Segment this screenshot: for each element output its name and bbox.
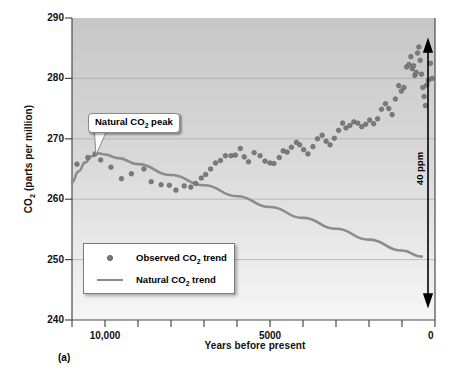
legend-natural-post: trend [189, 274, 215, 285]
data-point [263, 159, 268, 164]
data-point [75, 162, 80, 167]
ppm-arrow-label: 40 ppm [414, 146, 425, 192]
legend-item-natural: Natural CO2 trend [84, 268, 234, 292]
data-point [109, 165, 114, 170]
data-point [142, 167, 147, 172]
data-point [223, 153, 228, 158]
legend-item-observed: Observed CO2 trend [84, 246, 234, 270]
data-point [258, 153, 263, 158]
y-tick-label-290: 290 [30, 12, 64, 23]
data-point [213, 161, 218, 166]
data-point [390, 112, 395, 117]
data-point [199, 176, 204, 181]
data-point [208, 167, 213, 172]
data-point [229, 153, 234, 158]
y-axis-label-sub: 2 [28, 194, 37, 198]
data-point [238, 146, 243, 151]
natural-co2-peak-callout: Natural CO2 peak [88, 113, 180, 133]
data-point [417, 45, 422, 50]
data-point [320, 133, 325, 138]
data-point [402, 85, 407, 90]
data-point [340, 121, 345, 126]
data-point [387, 106, 392, 111]
legend-dot-marker [84, 255, 136, 261]
legend-observed-post: trend [201, 252, 227, 263]
data-point [182, 184, 187, 189]
data-point [430, 76, 435, 81]
data-point [363, 122, 368, 127]
data-point [193, 181, 198, 186]
data-point [419, 72, 424, 77]
data-point [252, 150, 257, 155]
data-point [306, 152, 311, 157]
x-axis-label: Years before present [155, 340, 355, 351]
data-point [174, 188, 179, 193]
data-point [407, 62, 412, 67]
data-point [355, 121, 360, 126]
data-point [189, 185, 194, 190]
x-axis-ticks [72, 320, 435, 327]
data-point [119, 176, 124, 181]
data-point [203, 172, 208, 177]
data-point [86, 155, 91, 160]
data-point [167, 183, 172, 188]
data-point [301, 147, 306, 152]
panel-letter: (a) [58, 352, 70, 363]
data-point [324, 139, 329, 144]
data-point [328, 143, 333, 148]
legend-label-observed: Observed CO2 trend [136, 252, 227, 265]
legend-line-marker [84, 279, 136, 282]
data-point [418, 58, 423, 63]
data-point [336, 128, 341, 133]
data-point [297, 143, 302, 148]
data-point [415, 51, 420, 56]
data-point [423, 103, 428, 108]
data-point [311, 144, 316, 149]
data-point [242, 155, 247, 160]
legend-label-natural: Natural CO2 trend [136, 274, 216, 287]
data-point [414, 70, 419, 75]
data-point [289, 145, 294, 150]
data-point [218, 158, 223, 163]
data-point [233, 153, 238, 158]
data-point [422, 94, 427, 99]
data-point [409, 54, 414, 59]
y-tick-label-240: 240 [30, 314, 64, 325]
callout-label-pre: Natural CO [95, 116, 145, 127]
data-point [272, 161, 277, 166]
data-point [393, 97, 398, 102]
data-point [285, 150, 290, 155]
y-axis-label-pre: CO [23, 198, 34, 213]
data-point [411, 63, 416, 68]
data-point [332, 136, 337, 141]
data-point [246, 159, 251, 164]
data-point [371, 121, 376, 126]
y-axis-ticks [65, 18, 72, 320]
x-tick-label-10000: 10,000 [80, 330, 130, 341]
data-point [277, 155, 282, 160]
y-axis-label: CO2 (parts per million) [23, 69, 37, 249]
legend-natural-pre: Natural CO [136, 274, 186, 285]
callout-label-post: peak [148, 116, 172, 127]
y-axis-label-post: (parts per million) [23, 105, 34, 194]
data-point [379, 107, 384, 112]
figure-panel-a: 290 280 270 260 250 240 10,000 5000 0 CO… [0, 0, 454, 380]
data-point [367, 118, 372, 123]
data-point [383, 101, 388, 106]
data-point [129, 172, 134, 177]
chart-legend: Observed CO2 trend Natural CO2 trend [83, 243, 235, 294]
data-point [98, 158, 103, 163]
data-point [375, 117, 380, 122]
data-point [396, 83, 401, 88]
y-tick-label-250: 250 [30, 254, 64, 265]
data-point [315, 137, 320, 142]
legend-observed-pre: Observed CO [136, 252, 197, 263]
data-point [348, 123, 353, 128]
x-tick-label-0: 0 [428, 330, 444, 341]
data-point [159, 182, 164, 187]
co2-trend-chart [0, 0, 454, 380]
data-point [149, 179, 154, 184]
